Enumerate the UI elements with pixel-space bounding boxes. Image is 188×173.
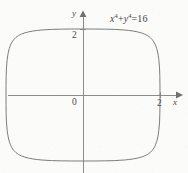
equation-annotation: x4+y4=16 — [110, 14, 148, 24]
x-tick-label-2: 2 — [157, 99, 162, 109]
x-axis-label: x — [173, 98, 177, 107]
equation-rhs: 16 — [137, 13, 147, 24]
y-axis-arrow-icon — [80, 11, 87, 18]
x-axis-arrow-icon — [176, 92, 183, 99]
plot-canvas — [0, 0, 188, 173]
origin-label: 0 — [72, 98, 77, 108]
y-axis-label: y — [72, 9, 76, 18]
y-tick-label-2: 2 — [72, 31, 77, 41]
squircle-plot-figure: x4+y4=16 y x 0 2 2 — [0, 0, 188, 173]
